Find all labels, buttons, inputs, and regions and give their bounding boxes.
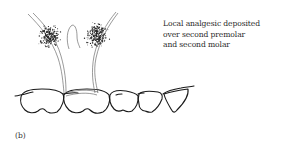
stipple-dot: [101, 41, 102, 42]
stipple-dot: [95, 45, 96, 46]
stipple-dot: [93, 39, 94, 40]
stipple-dot: [92, 41, 93, 42]
stipple-dot: [91, 26, 92, 27]
stipple-dot: [40, 31, 41, 32]
stipple-dot: [48, 28, 49, 29]
tooth-premolar-1: [138, 91, 162, 112]
stipple-dot: [46, 39, 47, 40]
stipple-dot: [84, 38, 85, 39]
stipple-dot: [99, 31, 100, 32]
stipple-dot: [93, 35, 94, 36]
stipple-dot: [52, 36, 53, 37]
stipple-dot: [57, 31, 58, 32]
stipple-dot: [54, 30, 55, 31]
stipple-dot: [45, 45, 46, 46]
stipple-dot: [99, 38, 100, 39]
stipple-dot: [96, 39, 97, 40]
stipple-dot: [44, 28, 45, 29]
stipple-dot: [47, 31, 48, 32]
stipple-dot: [89, 38, 90, 39]
stipple-dot: [97, 46, 98, 47]
stipple-dot: [45, 46, 46, 47]
stipple-dot: [50, 30, 51, 31]
stipple-dot: [94, 38, 95, 39]
stipple-dot: [100, 37, 101, 38]
stipple-dot: [47, 35, 48, 36]
stipple-dot: [103, 34, 104, 35]
stipple-dot: [40, 41, 41, 42]
stipple-dot: [92, 22, 93, 23]
stipple-dot: [103, 28, 104, 29]
stipple-dot: [104, 37, 105, 38]
stipple-dot: [89, 39, 90, 40]
stipple-dot: [57, 33, 58, 34]
stipple-dot: [39, 43, 40, 44]
stipple-dot: [47, 32, 48, 33]
tooth-premolar-2: [110, 91, 139, 112]
stipple-dot: [51, 41, 52, 42]
retracted-cheek: [67, 25, 80, 49]
stipple-dot: [57, 37, 58, 38]
stipple-dot: [50, 29, 51, 30]
stipple-dot: [50, 41, 51, 42]
stipple-dot: [105, 28, 106, 29]
stipple-dot: [43, 31, 44, 32]
stipple-dot: [97, 31, 98, 32]
stipple-dot: [90, 31, 91, 32]
stipple-dot: [102, 35, 103, 36]
stipple-dot: [57, 35, 58, 36]
stipple-dot: [49, 39, 50, 40]
stipple-dot: [88, 31, 89, 32]
stipple-dot: [86, 42, 87, 43]
stipple-dot: [55, 33, 56, 34]
stipple-dot: [50, 37, 51, 38]
stipple-dot: [104, 29, 105, 30]
stipple-dot: [44, 37, 45, 38]
stipple-dot: [92, 47, 93, 48]
stipple-dot: [55, 44, 56, 45]
stipple-dot: [98, 28, 99, 29]
stipple-dot: [97, 36, 98, 37]
stipple-dot: [93, 27, 94, 28]
stipple-dot: [90, 33, 91, 34]
stipple-dot: [87, 30, 88, 31]
stipple-dot: [93, 36, 94, 37]
stipple-dot: [52, 29, 53, 30]
teeth-row: [21, 89, 188, 113]
stipple-dot: [103, 36, 104, 37]
stipple-dot: [47, 39, 48, 40]
stipple-dot: [97, 28, 98, 29]
stipple-dot: [55, 27, 56, 28]
stipple-dot: [50, 43, 51, 44]
stipple-dot: [50, 36, 51, 37]
stipple-dot: [48, 26, 49, 27]
stipple-dot: [44, 33, 45, 34]
annotation-line: and second molar: [163, 40, 260, 51]
stipple-dot: [93, 30, 94, 31]
stipple-dot: [88, 37, 89, 38]
stipple-dot: [52, 30, 53, 31]
stipple-dot: [96, 37, 97, 38]
stipple-dot: [53, 34, 54, 35]
stipple-dot: [97, 27, 98, 28]
stipple-dot: [51, 32, 52, 33]
stipple-dot: [94, 33, 95, 34]
stipple-dot: [90, 43, 91, 44]
stipple-dot: [48, 45, 49, 46]
stipple-dot: [91, 36, 92, 37]
stipple-dot: [43, 37, 44, 38]
stipple-dot: [45, 32, 46, 33]
stipple-dot: [43, 43, 44, 44]
stipple-dot: [89, 35, 90, 36]
stipple-dot: [90, 38, 91, 39]
stipple-dot: [98, 35, 99, 36]
stipple-dot: [101, 36, 102, 37]
stipple-dot: [48, 43, 49, 44]
stipple-dot: [39, 35, 40, 36]
stipple-dot: [44, 39, 45, 40]
stipple-dot: [60, 39, 61, 40]
stipple-dot: [56, 33, 57, 34]
stipple-dot: [52, 37, 53, 38]
stipple-dot: [46, 41, 47, 42]
stipple-dot: [87, 35, 88, 36]
